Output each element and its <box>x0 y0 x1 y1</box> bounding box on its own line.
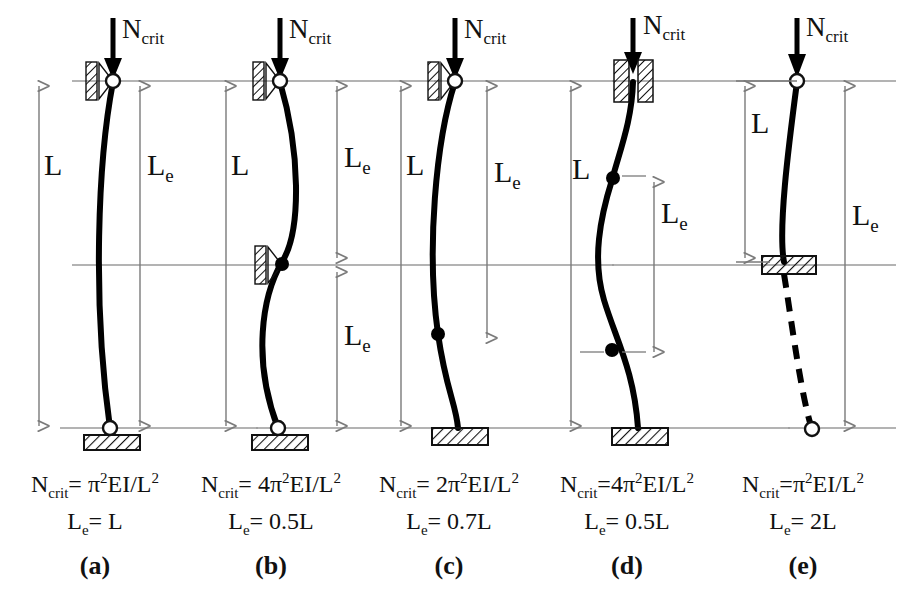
support-bottom-fixed-c <box>432 428 488 445</box>
load-label-b: Ncrit <box>289 14 331 49</box>
formula-le-d: Le= 0.5L <box>536 508 718 539</box>
caption-block-e: Ncrit=π2EI/L2 Le= 2L (e) <box>712 470 894 581</box>
support-bottom-pin-b <box>252 421 308 450</box>
caption-block-c: Ncrit= 2π2EI/L2 Le= 0.7L (c) <box>358 470 540 581</box>
dimension-label-Le-e: Le <box>852 198 879 237</box>
caption-block-d: Ncrit=4π2EI/L2 Le= 0.5L (d) <box>536 470 718 581</box>
mirrored-dashed-curve-e <box>784 274 811 426</box>
inflection-point-d-upper <box>606 171 620 185</box>
column-curve-d <box>598 82 638 428</box>
case-tag-b: (b) <box>180 551 362 581</box>
formula-ncrit-e: Ncrit=π2EI/L2 <box>712 470 894 502</box>
case-b-group <box>226 18 337 450</box>
dimension-label-L-c: L <box>406 148 424 182</box>
load-arrow-e <box>788 18 806 78</box>
dimension-label-L-b: L <box>231 148 249 182</box>
guide-lines <box>60 81 896 428</box>
dimension-label-Le-a: Le <box>147 148 174 187</box>
caption-block-b: Ncrit= 4π2EI/L2 Le= 0.5L (b) <box>180 470 362 581</box>
load-label-a: Ncrit <box>122 14 164 49</box>
load-arrow-c <box>446 18 464 80</box>
support-fixed-e <box>762 256 816 274</box>
dimension-label-L-d: L <box>572 152 590 186</box>
support-bottom-fixed-d <box>612 428 668 445</box>
dimension-label-Le-c: Le <box>494 155 521 194</box>
formula-le-c: Le= 0.7L <box>358 508 540 539</box>
load-label-e: Ncrit <box>806 12 848 47</box>
dimension-label-Le-d: Le <box>661 196 688 235</box>
inflection-point-c <box>431 327 445 341</box>
case-tag-e: (e) <box>712 551 894 581</box>
dimension-label-L-e: L <box>751 106 769 140</box>
mirrored-end-pin-e <box>805 422 819 436</box>
load-arrow-a <box>104 18 122 80</box>
formula-ncrit-b: Ncrit= 4π2EI/L2 <box>180 470 362 502</box>
column-curve-c <box>433 82 458 428</box>
case-tag-c: (c) <box>358 551 540 581</box>
formula-le-e: Le= 2L <box>712 508 894 539</box>
dimension-label-Le-b-lower: Le <box>344 318 371 357</box>
load-label-d: Ncrit <box>643 10 685 45</box>
case-tag-a: (a) <box>4 551 186 581</box>
column-curve-a <box>99 82 113 428</box>
case-a-group <box>39 18 140 450</box>
case-d-group <box>571 18 668 445</box>
inflection-point-d-lower <box>605 343 619 357</box>
dimension-label-L-a: L <box>44 148 62 182</box>
formula-le-b: Le= 0.5L <box>180 508 362 539</box>
case-tag-d: (d) <box>536 551 718 581</box>
formula-ncrit-d: Ncrit=4π2EI/L2 <box>536 470 718 502</box>
figure-canvas: Ncrit Ncrit Ncrit Ncrit Ncrit L Le L Le … <box>0 0 908 596</box>
case-c-group <box>401 18 488 445</box>
support-bottom-pin-a <box>84 421 140 450</box>
load-arrow-b <box>271 18 289 80</box>
formula-ncrit-a: Ncrit= π2EI/L2 <box>4 470 186 502</box>
dimension-label-Le-b-upper: Le <box>344 140 371 179</box>
formula-le-a: Le= L <box>4 508 186 539</box>
load-label-c: Ncrit <box>464 14 506 49</box>
formula-ncrit-c: Ncrit= 2π2EI/L2 <box>358 470 540 502</box>
caption-block-a: Ncrit= π2EI/L2 Le= L (a) <box>4 470 186 581</box>
column-curve-e <box>782 82 797 262</box>
